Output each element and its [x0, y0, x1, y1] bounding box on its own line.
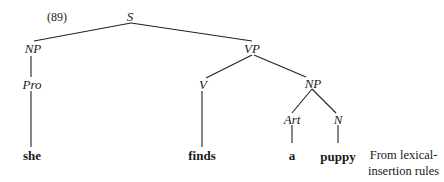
note-line-1: From lexical- [368, 147, 439, 163]
word-she: she [23, 149, 41, 162]
word-finds: finds [188, 149, 215, 162]
node-n: N [334, 113, 343, 126]
lexical-insertion-note: From lexical- insertion rules [368, 147, 439, 179]
node-np-subject: NP [25, 42, 42, 55]
node-np-object: NP [305, 77, 322, 90]
example-number: (89) [47, 11, 67, 23]
edge-vp-v [206, 55, 252, 78]
note-line-2: insertion rules [368, 163, 439, 179]
edge-vp-np [254, 55, 306, 77]
word-a: a [289, 149, 296, 162]
node-v: V [199, 78, 207, 91]
word-puppy: puppy [320, 150, 355, 163]
edge-np-n [312, 89, 336, 113]
node-vp: VP [244, 42, 260, 55]
edge-np-art [292, 89, 312, 113]
node-art: Art [284, 113, 301, 126]
edge-s-vp [131, 23, 252, 41]
node-s: S [127, 10, 134, 23]
node-pro: Pro [22, 78, 41, 91]
edge-s-np [34, 23, 131, 41]
